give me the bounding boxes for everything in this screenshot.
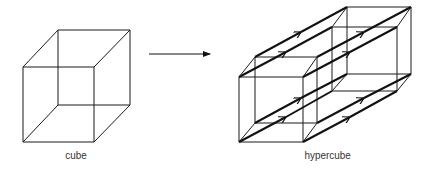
cube-figure — [23, 30, 130, 142]
back-cube-inner — [332, 27, 397, 91]
front-cube-inner — [255, 57, 317, 123]
diagram-canvas — [0, 0, 432, 171]
hypercube-figure — [239, 7, 411, 142]
hypercube-label: hypercube — [305, 149, 351, 161]
back-cube-outer — [347, 7, 411, 74]
cube-label: cube — [65, 149, 86, 161]
front-cube-outer — [239, 77, 303, 142]
